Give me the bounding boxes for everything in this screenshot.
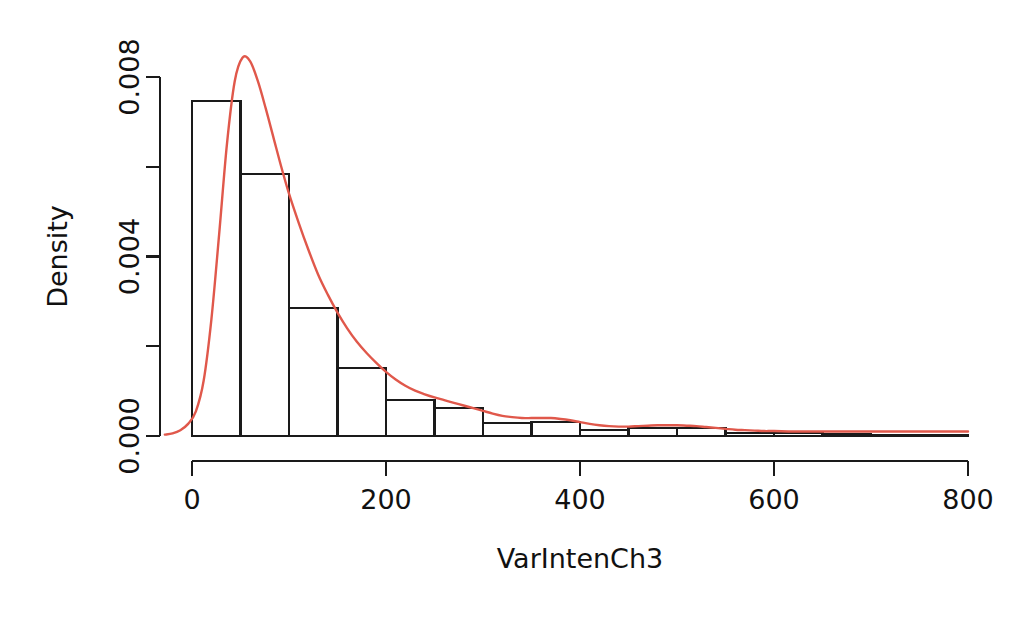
histogram-bar [871, 435, 920, 436]
histogram-bar [920, 435, 969, 436]
plot-canvas: 0.0000.0040.008 0200400600800 VarIntenCh… [0, 0, 1035, 617]
histogram-bar [241, 174, 290, 436]
plot-background [0, 0, 1035, 617]
x-axis-tick-label: 0 [183, 484, 200, 515]
histogram-bar [338, 368, 387, 436]
x-axis-tick-label: 400 [554, 484, 606, 515]
histogram-bar [483, 423, 532, 436]
histogram-bar [580, 430, 629, 436]
histogram-bar [435, 408, 484, 436]
y-axis-title: Density [42, 205, 73, 308]
histogram-bar [386, 400, 435, 436]
y-axis-tick-label: 0.004 [114, 218, 145, 295]
x-axis-tick-label: 600 [748, 484, 800, 515]
histogram-bar [289, 308, 338, 436]
x-axis-title: VarIntenCh3 [497, 543, 664, 574]
y-axis-tick-label: 0.000 [114, 397, 145, 474]
histogram-bar [774, 433, 823, 436]
histogram-bar [532, 422, 581, 436]
histogram-bar [823, 434, 872, 436]
histogram-bar [629, 428, 678, 436]
x-axis-tick-label: 200 [360, 484, 412, 515]
histogram-figure: 0.0000.0040.008 0200400600800 VarIntenCh… [0, 0, 1035, 617]
histogram-bar [726, 433, 775, 436]
y-axis-tick-label: 0.008 [114, 38, 145, 115]
x-axis-tick-label: 800 [942, 484, 994, 515]
